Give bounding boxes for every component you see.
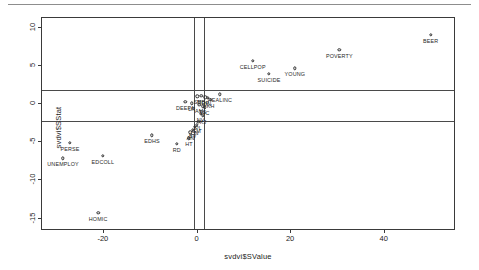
top-divider-rule: [8, 4, 471, 5]
y-tick-label: 0: [28, 95, 37, 111]
data-point-label: EDCOLL: [92, 159, 114, 165]
plot-frame: 1050-5-10-15-2002040BEERPOVERTYCELLPOPYO…: [41, 17, 455, 230]
horizontal-reference-line: [42, 121, 454, 122]
x-tick-mark: [197, 229, 198, 233]
x-tick-mark: [384, 229, 385, 233]
data-point-label: EDHS: [144, 138, 160, 144]
y-tick-mark: [38, 27, 42, 28]
data-point: [199, 94, 202, 97]
data-point: [251, 59, 254, 62]
y-tick-label: -5: [28, 133, 37, 149]
y-tick-mark: [38, 103, 42, 104]
x-axis-title: svdvi$SValue: [41, 252, 455, 261]
data-point-label: AN: [187, 135, 195, 141]
data-point-label: KH: [207, 103, 215, 109]
data-point-label: SUICIDE: [258, 77, 281, 83]
data-point: [338, 48, 341, 51]
x-tick-label: 0: [194, 234, 198, 243]
data-point-label: BEER: [423, 38, 438, 44]
data-point: [218, 92, 221, 95]
data-point: [175, 142, 178, 145]
x-tick-label: 40: [380, 234, 388, 243]
y-axis-title: svdvi$SStat: [54, 68, 63, 188]
data-point-label: POVERTY: [326, 53, 353, 59]
data-point-label: PERSE: [61, 146, 80, 152]
data-point-label: CELLPOP: [240, 64, 266, 70]
data-point: [184, 100, 187, 103]
y-tick-mark: [38, 179, 42, 180]
x-tick-label: -20: [97, 234, 108, 243]
scatter-plot-figure: 1050-5-10-15-2002040BEERPOVERTYCELLPOPYO…: [0, 0, 479, 270]
y-tick-mark: [38, 218, 42, 219]
y-tick-label: -10: [28, 171, 37, 187]
y-tick-label: -15: [28, 210, 37, 226]
data-point: [101, 154, 104, 157]
x-tick-label: 20: [286, 234, 294, 243]
y-tick-label: 5: [28, 57, 37, 73]
data-point: [96, 211, 99, 214]
y-tick-mark: [38, 65, 42, 66]
data-point: [293, 67, 296, 70]
data-point-label: UNEMPLOY: [47, 161, 78, 167]
x-tick-mark: [290, 229, 291, 233]
data-point-label: HT: [185, 141, 193, 147]
x-tick-mark: [103, 229, 104, 233]
data-point-label: YOUNG: [285, 71, 306, 77]
data-point-label: KJ: [200, 119, 207, 125]
horizontal-reference-line: [42, 90, 454, 91]
y-tick-label: 10: [28, 19, 37, 35]
data-point: [150, 134, 153, 137]
data-point: [267, 72, 270, 75]
data-point-label: HOMIC: [89, 216, 108, 222]
data-point: [429, 33, 432, 36]
y-tick-mark: [38, 141, 42, 142]
data-point: [68, 141, 71, 144]
data-point-label: RD: [173, 147, 181, 153]
